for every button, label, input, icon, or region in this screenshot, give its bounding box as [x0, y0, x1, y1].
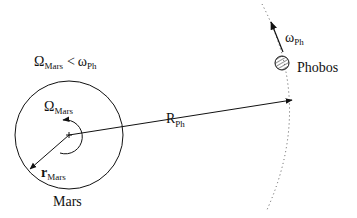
condition-rhs-symbol: ω: [78, 54, 87, 69]
diagram-canvas: ΩMars<ωPh ΩMars rMars Mars RPh ωPh Phobo…: [0, 0, 357, 218]
mars-rotation-arrow-icon: [60, 120, 82, 154]
mars-rotation-sub: Mars: [54, 106, 73, 116]
condition-lhs-sub: Mars: [44, 61, 63, 71]
mars-label: Mars: [53, 194, 82, 209]
phobos-velocity-symbol: ω: [285, 30, 294, 45]
phobos-label: Phobos: [297, 60, 338, 75]
condition-rhs-sub: Ph: [87, 61, 97, 71]
phobos-circle-icon: [275, 56, 289, 70]
orbit-radius-label: RPh: [166, 111, 185, 129]
orbit-radius-arrow-icon: [69, 100, 292, 135]
mars-rotation-label: ΩMars: [44, 99, 73, 116]
phobos-velocity-arrow-icon: [271, 22, 283, 52]
mars-radius-label: rMars: [41, 165, 66, 182]
orbit-radius-sub: Ph: [175, 119, 185, 129]
mars-rotation-symbol: Ω: [44, 99, 54, 114]
mars-phobos-diagram: ΩMars<ωPh ΩMars rMars Mars RPh ωPh Phobo…: [0, 0, 357, 218]
condition-label: ΩMars<ωPh: [34, 54, 97, 71]
condition-operator: <: [67, 54, 75, 69]
mars-radius-sub: Mars: [47, 172, 66, 182]
condition-lhs-symbol: Ω: [34, 54, 44, 69]
phobos-velocity-sub: Ph: [294, 37, 304, 47]
mars-radius-arrow-icon: [30, 135, 69, 169]
phobos-velocity-label: ωPh: [285, 30, 304, 47]
